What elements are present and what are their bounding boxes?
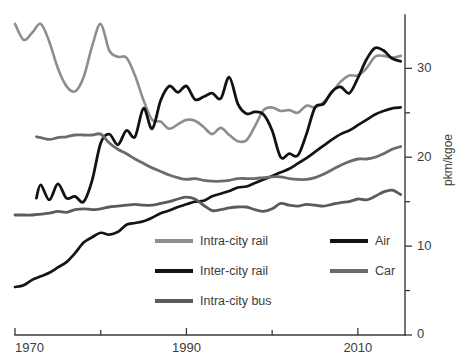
legend-item-air[interactable]: Air <box>330 234 390 248</box>
series-line-intra-city-rail <box>15 24 401 142</box>
legend-item-intra-city-rail[interactable]: Intra-city rail <box>155 234 268 248</box>
y-tick-label: 20 <box>417 149 431 164</box>
x-tick-label: 1990 <box>172 340 201 355</box>
series-line-car <box>36 134 400 182</box>
legend-item-intra-city-bus[interactable]: Intra-city bus <box>155 294 272 308</box>
legend-label: Intra-city bus <box>200 294 272 308</box>
chart-legend: Intra-city railInter-city railIntra-city… <box>155 234 395 308</box>
line-chart: 1970199020100102030pkm/kgoe Intra-city r… <box>0 0 467 360</box>
x-tick-label: 2010 <box>343 340 372 355</box>
legend-label: Inter-city rail <box>200 264 268 278</box>
y-axis-title: pkm/kgoe <box>441 134 455 186</box>
chart-container: 1970199020100102030pkm/kgoe Intra-city r… <box>0 0 467 360</box>
legend-label: Intra-city rail <box>200 234 268 248</box>
series-line-air <box>36 47 400 202</box>
legend-label: Car <box>375 264 395 278</box>
y-tick-label: 0 <box>417 326 424 341</box>
legend-item-car[interactable]: Car <box>330 264 395 278</box>
series-line-intra-city-bus <box>15 190 401 215</box>
x-tick-label: 1970 <box>15 340 44 355</box>
y-tick-label: 10 <box>417 238 431 253</box>
legend-item-inter-city-rail[interactable]: Inter-city rail <box>155 264 268 278</box>
y-tick-label: 30 <box>417 60 431 75</box>
legend-label: Air <box>375 234 390 248</box>
